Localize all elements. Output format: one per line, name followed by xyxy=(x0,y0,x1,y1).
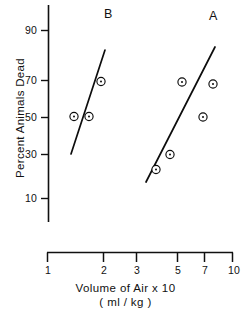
data-point-marker xyxy=(166,150,174,158)
y-tick-label-30: 30 xyxy=(15,148,37,160)
y-tick-label-50: 50 xyxy=(15,111,37,123)
y-axis-ticks xyxy=(41,31,49,199)
data-point-marker xyxy=(199,113,207,121)
x-axis-units-label: ( ml / kg ) xyxy=(0,296,251,308)
y-tick-label-90: 90 xyxy=(15,24,37,36)
x-tick-label-3: 3 xyxy=(129,264,145,276)
series-b-points xyxy=(70,77,105,120)
series-label-a: A xyxy=(209,9,218,23)
y-tick-label-10: 10 xyxy=(15,192,37,204)
data-point-marker xyxy=(70,112,78,120)
series-b-fit-line xyxy=(71,50,105,154)
x-tick-label-2: 2 xyxy=(96,264,112,276)
data-point-marker xyxy=(85,112,93,120)
chart-figure: Percent Animals Dead 90 70 50 30 10 1 2 … xyxy=(0,0,251,314)
x-tick-label-7: 7 xyxy=(197,264,213,276)
x-tick-label-5: 5 xyxy=(170,264,186,276)
series-label-b: B xyxy=(104,7,113,21)
series-a-points xyxy=(152,78,217,174)
x-axis-label: Volume of Air x 10 xyxy=(0,282,251,294)
x-tick-label-10: 10 xyxy=(226,264,242,276)
data-point-marker xyxy=(178,78,186,86)
data-point-marker xyxy=(152,165,160,173)
data-point-marker xyxy=(209,80,217,88)
chart-canvas xyxy=(0,0,251,314)
y-tick-label-70: 70 xyxy=(15,74,37,86)
x-tick-label-1: 1 xyxy=(40,264,56,276)
x-axis xyxy=(47,253,233,263)
data-point-marker xyxy=(97,77,105,85)
